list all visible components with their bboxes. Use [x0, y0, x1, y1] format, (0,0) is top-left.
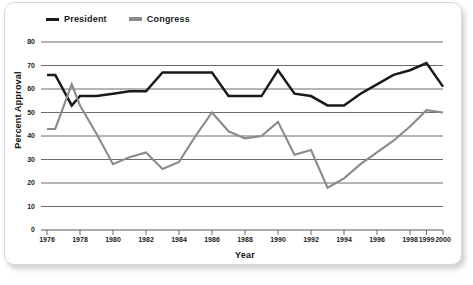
y-axis-title: Percent Approval	[13, 70, 23, 150]
x-tick-label: 2000	[429, 236, 457, 243]
x-tick-label: 1980	[99, 236, 127, 243]
series-line-president	[47, 63, 443, 105]
x-tick-label: 1990	[264, 236, 292, 243]
y-tick-label: 10	[19, 203, 35, 210]
x-tick-label: 1984	[165, 236, 193, 243]
x-tick-label: 1976	[33, 236, 61, 243]
y-tick-label: 0	[19, 226, 35, 233]
x-tick-label: 1996	[363, 236, 391, 243]
gridlines	[41, 42, 443, 207]
x-tick-label: 1986	[198, 236, 226, 243]
y-tick-label: 80	[19, 38, 35, 45]
x-tick-label: 1982	[132, 236, 160, 243]
x-tick-label: 1994	[330, 236, 358, 243]
y-tick-label: 20	[19, 179, 35, 186]
x-tick-label: 1992	[297, 236, 325, 243]
x-axis-title: Year	[200, 250, 290, 260]
axis-ticks	[47, 230, 443, 235]
y-tick-label: 70	[19, 62, 35, 69]
x-tick-label: 1978	[66, 236, 94, 243]
y-tick-label: 30	[19, 156, 35, 163]
x-tick-label: 1988	[231, 236, 259, 243]
approval-line-chart: President Congress 80706050403020100 197…	[0, 0, 473, 285]
data-series	[47, 63, 443, 188]
